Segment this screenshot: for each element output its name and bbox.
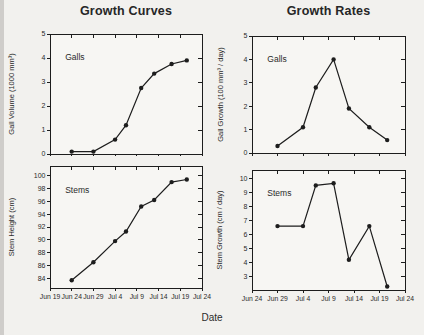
data-point [314,85,318,89]
y-axis-label: Gall Growth (100 mm³ / day) [216,47,225,142]
y-tick-label: 84 [38,275,46,282]
y-tick-label: 1 [244,126,248,133]
y-axis-label: Stem Height (cm) [7,197,16,256]
data-point [113,137,117,141]
x-tick-label: Jun 19 [40,293,61,300]
panel-label: Stems [267,188,291,198]
data-point [367,125,371,129]
data-point [275,144,279,148]
data-point [301,125,305,129]
chart-gall-volume: 012345Gall Volume (1000 mm³)Galls [0,24,212,156]
chart-panel-stem-growth: Jun 24Jun 29Jul 4Jul 9Jul 14Jul 19Jul 24… [212,156,424,306]
y-tick-label: 4 [244,56,248,63]
data-point [139,86,143,90]
chart-stem-height: Jun 19Jun 24Jun 29Jul 4Jul 9Jul 14Jul 19… [0,156,212,306]
data-point [314,183,318,187]
chart-panel-gall-growth: 012345Gall Growth (100 mm³ / day)Galls [212,24,424,156]
y-tick-label: 6 [244,231,248,238]
y-tick-label: 3 [42,78,46,85]
data-point [367,224,371,228]
panel-label: Galls [65,52,84,62]
x-tick-label: Jun 29 [83,293,104,300]
data-point [331,57,335,61]
figure-canvas: Growth Curves Growth Rates 012345Gall Vo… [0,0,424,335]
x-tick-label: Jun 29 [267,295,288,302]
y-tick-label: 86 [38,262,46,269]
data-point [169,62,173,66]
x-tick-label: Jul 9 [321,295,336,302]
data-point [347,106,351,110]
y-tick-label: 8 [244,203,248,210]
data-point [347,258,351,262]
right-column-title: Growth Rates [252,4,405,20]
y-tick-label: 5 [244,245,248,252]
left-column-title: Growth Curves [50,4,202,20]
data-point [331,181,335,185]
chart-panel-gall-volume: 012345Gall Volume (1000 mm³)Galls [0,24,212,156]
x-tick-label: Jul 9 [130,293,145,300]
data-point [385,138,389,142]
y-tick-label: 96 [38,198,46,205]
chart-stem-growth: Jun 24Jun 29Jul 4Jul 9Jul 14Jul 19Jul 24… [212,156,424,306]
y-tick-label: 10 [240,175,248,182]
data-point [275,224,279,228]
data-point [152,71,156,75]
x-tick-label: Jul 19 [370,295,388,302]
data-point [113,239,117,243]
y-tick-label: 0 [244,149,248,156]
y-tick-label: 94 [38,211,46,218]
data-point [301,224,305,228]
y-tick-label: 7 [244,217,248,224]
panel-label: Stems [65,185,89,195]
data-point [139,204,143,208]
x-axis-title: Date [0,312,424,323]
y-axis-label: Gall Volume (1000 mm³) [7,53,16,135]
y-tick-label: 5 [244,32,248,39]
data-point [91,149,95,153]
data-point [124,123,128,127]
chart-panel-stem-height: Jun 19Jun 24Jun 29Jul 4Jul 9Jul 14Jul 19… [0,156,212,306]
y-tick-label: 1 [42,126,46,133]
data-point [124,229,128,233]
data-point [152,198,156,202]
y-tick-label: 88 [38,249,46,256]
x-tick-label: Jun 24 [242,295,263,302]
data-point [70,278,74,282]
data-point [70,149,74,153]
y-tick-label: 98 [38,185,46,192]
y-tick-label: 3 [244,79,248,86]
y-tick-label: 2 [42,102,46,109]
y-tick-label: 90 [38,236,46,243]
x-tick-label: Jul 19 [171,293,189,300]
y-tick-label: 4 [244,259,248,266]
data-point [185,177,189,181]
y-tick-label: 92 [38,223,46,230]
y-tick-label: 2 [244,103,248,110]
x-tick-label: Jun 24 [62,293,83,300]
y-tick-label: 4 [42,54,46,61]
y-axis-label: Stem Growth (cm / day) [215,190,224,270]
x-tick-label: Jul 4 [296,295,311,302]
chart-gall-growth: 012345Gall Growth (100 mm³ / day)Galls [212,24,424,156]
y-tick-label: 9 [244,189,248,196]
y-tick-label: 5 [42,30,46,37]
y-tick-label: 3 [244,273,248,280]
data-point [169,180,173,184]
data-point [185,58,189,62]
panel-label: Galls [267,54,286,64]
x-tick-label: Jul 14 [150,293,168,300]
x-tick-label: Jul 14 [345,295,363,302]
x-tick-label: Jul 24 [193,293,211,300]
x-tick-label: Jul 4 [108,293,123,300]
data-point [91,260,95,264]
data-point [385,284,389,288]
y-tick-label: 100 [34,172,46,179]
x-tick-label: Jul 24 [396,295,414,302]
